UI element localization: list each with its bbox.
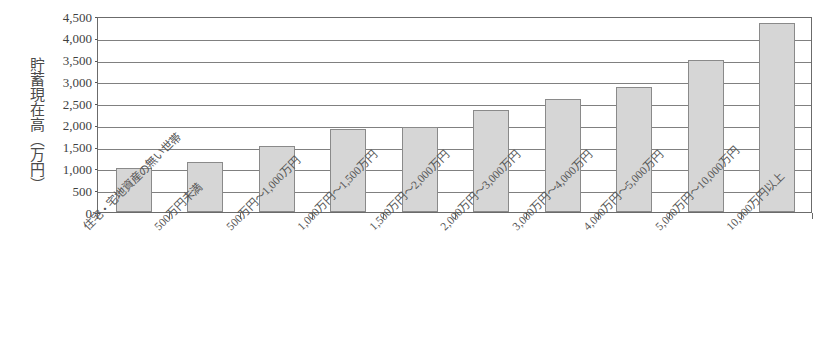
y-axis-title: 貯蓄現在高（万円） [10, 38, 44, 210]
y-axis-tick-label: 2,000 [44, 119, 92, 132]
y-axis-tick-label: 500 [44, 185, 92, 198]
y-axis-tick-label: 2,500 [44, 98, 92, 111]
y-axis-tick-label: 3,000 [44, 76, 92, 89]
y-axis-tick-label: 4,000 [44, 32, 92, 45]
y-axis-tick-label: 4,500 [44, 11, 92, 24]
y-axis-tick-label: 1,500 [44, 141, 92, 154]
x-axis-label-group: 住宅・宅地資産の無い世帯500万円未満500万円～1,000万円1,000万円～… [0, 218, 829, 361]
y-axis-tick-label: 3,500 [44, 54, 92, 67]
savings-by-housing-asset-bar-chart: 貯蓄現在高（万円） 4,5004,0003,5003,0002,5002,000… [0, 0, 829, 361]
y-axis-tick-label: 1,000 [44, 163, 92, 176]
